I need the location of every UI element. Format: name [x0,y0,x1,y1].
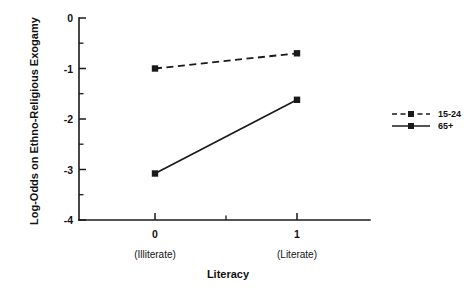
chart-legend: 15-24 65+ [392,109,461,131]
y-tick-label-4: -4 [64,214,73,226]
x-sublabel-literate: (Literate) [277,249,317,260]
legend-item-15-24: 15-24 [392,109,461,119]
x-sublabel-illiterate: (Illiterate) [134,249,176,260]
y-tick-label-2: -2 [64,113,73,125]
data-point-marker [152,170,158,176]
x-axis-title: Literacy [207,268,250,280]
legend-item-65-plus: 65+ [392,121,453,131]
y-axis-major-ticks [79,18,86,220]
x-tick-label-0: 0 [152,228,158,240]
series-15-24 [152,50,300,72]
data-point-marker [152,65,158,71]
legend-marker-square [408,111,414,117]
x-tick-label-1: 1 [294,228,300,240]
line-chart-canvas: Log-Odds on Ethno-Religious Exogamy 0 -1… [0,0,464,292]
y-tick-label-3: -3 [64,164,73,176]
legend-marker-square [408,123,414,129]
series-65-plus [152,97,300,177]
y-tick-label-1: -1 [64,63,73,75]
y-axis-title: Log-Odds on Ethno-Religious Exogamy [28,16,40,225]
data-point-marker [294,97,300,103]
chart-figure: Log-Odds on Ethno-Religious Exogamy 0 -1… [0,0,464,292]
data-point-marker [294,50,300,56]
legend-label-65-plus: 65+ [438,121,453,131]
legend-label-15-24: 15-24 [438,109,461,119]
y-tick-label-0: 0 [67,12,73,24]
